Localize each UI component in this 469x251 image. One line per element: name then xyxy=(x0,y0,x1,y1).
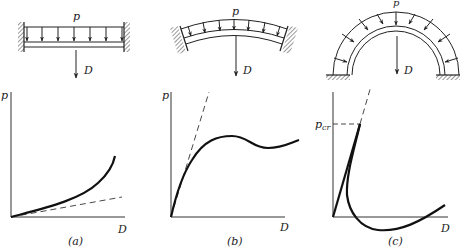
load-label: p xyxy=(232,5,239,18)
left-wall-support xyxy=(18,22,24,52)
arch-inner xyxy=(352,31,440,75)
panel-caption: (a) xyxy=(68,235,83,248)
y-axis-label: p xyxy=(162,89,169,102)
x-axis-label: D xyxy=(279,221,289,234)
panel-b-plot: p D (b) xyxy=(162,89,299,248)
x-axis-label: D xyxy=(440,222,450,235)
arch-bottom xyxy=(186,36,282,45)
panel-caption: (c) xyxy=(388,235,403,248)
figure-canvas: p D p D (a) p D xyxy=(0,0,469,251)
deflection-label: D xyxy=(242,64,252,77)
panel-caption: (b) xyxy=(227,235,243,248)
left-wall-support xyxy=(170,26,186,54)
load-label: p xyxy=(393,0,400,8)
x-axis-label: D xyxy=(117,223,127,236)
deflection-label: D xyxy=(403,64,413,77)
linear-extension-line xyxy=(360,86,371,124)
critical-load-label: pcr xyxy=(315,118,332,132)
load-arrows-icon xyxy=(27,27,122,41)
load-deflection-curve xyxy=(171,136,299,217)
post-buckling-path xyxy=(347,124,445,230)
panel-a-structure: p D xyxy=(18,10,130,78)
right-ground-support xyxy=(436,75,460,80)
load-label: p xyxy=(73,10,80,23)
deflection-label: D xyxy=(83,64,93,77)
load-arrows-icon xyxy=(334,12,458,62)
right-wall-support xyxy=(124,22,130,52)
panel-a-plot: p D (a) xyxy=(1,89,127,248)
arch-outer xyxy=(347,26,445,75)
panel-c-structure: p D xyxy=(326,0,460,80)
right-wall-support xyxy=(282,26,298,54)
panel-b-structure: p D xyxy=(170,5,298,77)
panel-c-plot: D pcr (c) xyxy=(315,86,450,248)
arch-top xyxy=(184,30,284,39)
y-axis-label: p xyxy=(1,89,8,102)
left-ground-support xyxy=(326,75,350,80)
